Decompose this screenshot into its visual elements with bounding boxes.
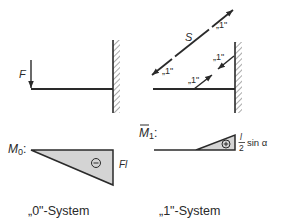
moment-diagram-0: M0: Fl [8, 142, 128, 185]
moment-value-1-suffix: sin α [247, 137, 268, 148]
unit-load-method-diagram: F M0: Fl „0"-System S „1" [0, 0, 282, 224]
wall-hatching [113, 40, 120, 113]
moment-area-1 [196, 135, 235, 150]
system-0: F M0: Fl „0"-System [8, 40, 128, 218]
moment-value-0: Fl [119, 159, 128, 170]
unit-label-wall: „1" [213, 52, 224, 62]
fraction-denominator: 2 [239, 143, 244, 153]
force-label: F [19, 68, 27, 80]
unit-label-beam: „1" [188, 75, 199, 85]
system-1: S „1" „1" „1" „1" M1: l 2 sin α „1"-Syst… [139, 10, 268, 218]
moment-diagram-1: M1: l 2 sin α [139, 125, 268, 153]
fraction-numerator: l [240, 132, 243, 142]
moment-area-0 [31, 150, 113, 185]
rod-label: S [185, 31, 193, 43]
unit-label-lower: „1" [162, 66, 173, 76]
fixed-wall-support-0 [113, 40, 120, 113]
caption-1-system: „1"-System [159, 204, 220, 218]
wall-hatching [235, 42, 242, 113]
moment-label-m0: M0: [8, 142, 26, 157]
unit-label-upper: „1" [216, 20, 227, 30]
caption-0-system: „0"-System [28, 204, 89, 218]
moment-label-m1: M1: [139, 126, 157, 141]
fixed-wall-support-1 [235, 42, 242, 113]
